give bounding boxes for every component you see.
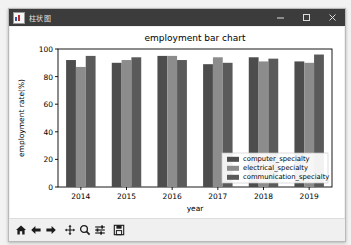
bar-2015-communication_specialty[interactable]: [131, 57, 141, 187]
legend-swatch-computer_specialty: [227, 157, 239, 162]
maximize-icon: [302, 13, 311, 22]
x-tick-label-2014: 2014: [71, 192, 90, 201]
bar-2015-electrical_specialty[interactable]: [122, 60, 132, 187]
bar-2015-computer_specialty[interactable]: [112, 63, 122, 187]
window-title: 柱状图: [29, 13, 51, 23]
configure-subplots-button[interactable]: [92, 223, 107, 238]
y-tick-label-40: 40: [43, 128, 53, 137]
bar-2017-computer_specialty[interactable]: [203, 64, 213, 187]
y-axis-label: employment rate(%): [17, 79, 26, 157]
legend-label-communication_specialty: communication_specialty: [243, 173, 329, 181]
x-tick-label-2016: 2016: [163, 192, 182, 201]
minimize-icon: [276, 13, 285, 22]
magnifier-icon: [79, 224, 91, 236]
matplotlib-canvas[interactable]: employment bar chart020406080100employme…: [10, 27, 344, 218]
x-axis-label: year: [187, 204, 205, 213]
x-tick-label-2017: 2017: [208, 192, 227, 201]
chart-app-icon: [13, 12, 25, 24]
y-tick-label-80: 80: [43, 73, 53, 82]
y-tick-label-60: 60: [43, 100, 53, 109]
home-button[interactable]: [13, 223, 28, 238]
bar-2014-electrical_specialty[interactable]: [76, 67, 86, 187]
bar-2014-computer_specialty[interactable]: [66, 60, 76, 187]
save-button[interactable]: [111, 223, 126, 238]
floppy-disk-icon: [113, 224, 125, 236]
x-tick-label-2015: 2015: [117, 192, 136, 201]
move-cross-icon: [64, 224, 76, 236]
bar-2014-communication_specialty[interactable]: [86, 56, 96, 187]
sliders-icon: [94, 224, 106, 236]
maximize-button[interactable]: [293, 9, 319, 26]
bar-2017-electrical_specialty[interactable]: [213, 57, 223, 187]
chart-title: employment bar chart: [145, 33, 246, 43]
zoom-button[interactable]: [77, 223, 92, 238]
minimize-button[interactable]: [267, 9, 293, 26]
close-button[interactable]: [319, 9, 345, 26]
navigation-toolbar: [9, 218, 345, 241]
home-icon: [15, 224, 27, 236]
y-tick-label-0: 0: [48, 183, 53, 192]
bar-2016-electrical_specialty[interactable]: [167, 56, 177, 187]
bar-chart-figure: employment bar chart020406080100employme…: [10, 27, 344, 217]
y-tick-label-100: 100: [39, 45, 54, 54]
desktop-background: 柱状图: [0, 0, 351, 245]
y-tick-label-20: 20: [43, 155, 53, 164]
window-title-bar[interactable]: 柱状图: [9, 9, 345, 26]
window-controls: [267, 9, 345, 26]
back-button[interactable]: [28, 223, 43, 238]
pan-button[interactable]: [62, 223, 77, 238]
legend-swatch-electrical_specialty: [227, 166, 239, 171]
forward-button[interactable]: [43, 223, 58, 238]
arrow-left-icon: [30, 224, 42, 236]
legend-label-electrical_specialty: electrical_specialty: [243, 164, 308, 172]
x-tick-label-2018: 2018: [254, 192, 273, 201]
legend-label-computer_specialty: computer_specialty: [243, 155, 310, 163]
arrow-right-icon: [45, 224, 57, 236]
legend-swatch-communication_specialty: [227, 175, 239, 180]
x-tick-label-2019: 2019: [300, 192, 319, 201]
application-window: 柱状图: [8, 8, 346, 242]
bar-2016-computer_specialty[interactable]: [157, 56, 167, 187]
bar-2016-communication_specialty[interactable]: [177, 60, 187, 187]
close-icon: [328, 13, 337, 22]
